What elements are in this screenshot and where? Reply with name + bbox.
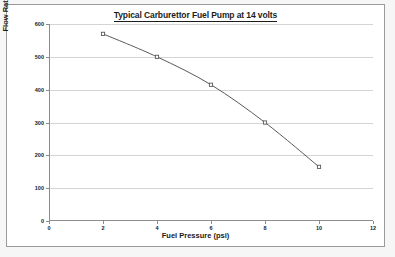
- data-point-marker: [155, 55, 158, 58]
- x-tick-mark: [373, 221, 374, 224]
- chart-screenshot: Typical Carburettor Fuel Pump at 14 volt…: [0, 0, 395, 257]
- image-frame: Typical Carburettor Fuel Pump at 14 volt…: [6, 4, 385, 247]
- data-point-marker: [263, 121, 266, 124]
- y-tick-label: 0: [41, 218, 44, 224]
- data-point-marker: [209, 83, 212, 86]
- y-tick-label: 100: [35, 185, 44, 191]
- x-tick-label: 10: [316, 225, 322, 231]
- plot-area: 0100200300400500600 024681012: [49, 24, 373, 221]
- data-point-marker: [317, 165, 320, 168]
- x-axis-title: Fuel Pressure (psi): [7, 231, 384, 240]
- x-tick-label: 0: [47, 225, 50, 231]
- data-series: [49, 24, 373, 221]
- x-tick-label: 8: [263, 225, 266, 231]
- data-point-marker: [101, 32, 104, 35]
- y-tick-label: 300: [35, 120, 44, 126]
- x-tick-mark: [211, 221, 212, 224]
- y-tick-label: 400: [35, 87, 44, 93]
- x-tick-mark: [265, 221, 266, 224]
- x-tick-mark: [319, 221, 320, 224]
- x-tick-mark: [49, 221, 50, 224]
- x-tick-mark: [157, 221, 158, 224]
- y-tick-label: 600: [35, 21, 44, 27]
- y-tick-label: 200: [35, 152, 44, 158]
- x-tick-label: 2: [101, 225, 104, 231]
- y-tick-label: 500: [35, 54, 44, 60]
- y-axis-title: Flow Rate (litres per hour): [1, 0, 10, 55]
- chart-title: Typical Carburettor Fuel Pump at 14 volt…: [7, 10, 384, 20]
- x-tick-label: 12: [370, 225, 376, 231]
- x-tick-mark: [103, 221, 104, 224]
- chart-canvas: Typical Carburettor Fuel Pump at 14 volt…: [7, 5, 384, 246]
- x-tick-label: 6: [209, 225, 212, 231]
- x-tick-label: 4: [155, 225, 158, 231]
- series-line: [103, 34, 319, 167]
- chart-title-text: Typical Carburettor Fuel Pump at 14 volt…: [114, 10, 277, 22]
